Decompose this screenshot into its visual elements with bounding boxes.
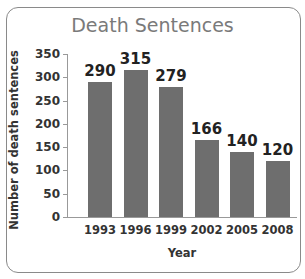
x-tick-label: 1996 [116, 223, 156, 237]
y-tick-label: 250 [28, 95, 60, 107]
x-tick-label: 2002 [187, 223, 227, 237]
data-label: 315 [116, 50, 156, 68]
bar-2002 [195, 140, 219, 217]
y-tick [63, 217, 67, 218]
y-tick [63, 124, 67, 125]
y-axis-line [67, 54, 68, 217]
bar-1999 [159, 87, 183, 217]
y-tick [63, 54, 67, 55]
x-axis-line [67, 217, 297, 218]
y-tick-label: 100 [28, 164, 60, 176]
x-tick-label: 2008 [258, 223, 298, 237]
bar-1993 [88, 82, 112, 217]
data-label: 279 [151, 67, 191, 85]
y-tick [63, 194, 67, 195]
x-axis-label: Year [67, 246, 297, 260]
y-tick [63, 101, 67, 102]
x-tick-label: 2005 [222, 223, 262, 237]
data-label: 290 [80, 62, 120, 80]
chart-title: Death Sentences [0, 14, 305, 36]
y-tick-label: 300 [28, 71, 60, 83]
data-label: 166 [187, 120, 227, 138]
data-label: 120 [258, 141, 298, 159]
bar-2008 [266, 161, 290, 217]
data-label: 140 [222, 132, 262, 150]
y-tick [63, 170, 67, 171]
y-axis-label: Number of death sentences [4, 60, 24, 220]
y-tick [63, 77, 67, 78]
y-tick-label: 350 [28, 48, 60, 60]
bar-2005 [230, 152, 254, 217]
y-tick [63, 147, 67, 148]
y-tick-label: 200 [28, 118, 60, 130]
y-tick-label: 150 [28, 141, 60, 153]
x-tick-label: 1999 [151, 223, 191, 237]
bar-1996 [124, 70, 148, 217]
y-tick-label: 0 [28, 211, 60, 223]
y-tick-label: 50 [28, 188, 60, 200]
x-tick-label: 1993 [80, 223, 120, 237]
